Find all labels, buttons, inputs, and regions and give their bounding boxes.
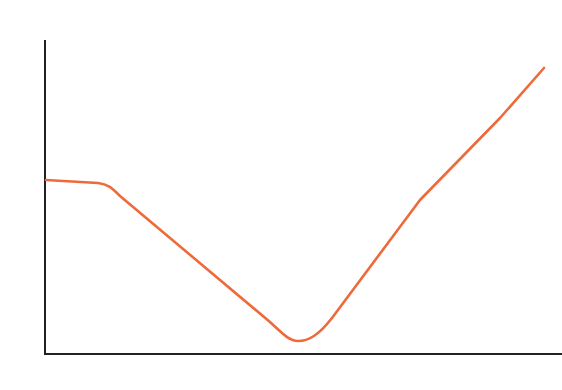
plot-area bbox=[0, 0, 562, 390]
speed-curve bbox=[46, 68, 544, 341]
